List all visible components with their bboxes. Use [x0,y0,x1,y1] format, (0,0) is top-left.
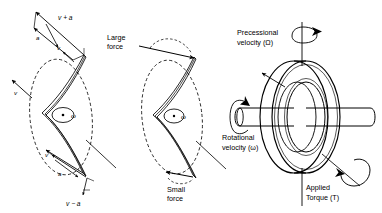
right-panel: Precessional velocity (Ω) [222,22,375,206]
middle-panel: ω Large force Small force [107,33,226,203]
left-side-vector: v [12,80,32,98]
left-panel: ω v + a a v v [12,12,116,207]
rotational-velocity-label-line1: Rotational [222,133,255,142]
middle-small-force: Small force [166,172,193,203]
left-side-velocity-label: v [14,89,18,96]
precession-arrow [292,27,322,43]
left-hub: ω [52,108,76,123]
flywheel [260,61,340,173]
left-resultant-bottom-label: v − a [66,200,81,207]
middle-large-force-label-line2: force [107,42,123,51]
figure-svg: ω v + a a v v [0,0,382,213]
left-resultant-top-label: v + a [58,14,73,21]
precessional-velocity-label-line1: Precessional [237,28,279,37]
middle-large-force: Large force [107,33,194,58]
left-delta-top-label: a [36,34,40,41]
middle-spin-label: ω [181,113,186,120]
precessional-velocity-label-line2: velocity (Ω) [237,38,273,47]
middle-small-force-label-line1: Small [167,185,185,194]
middle-small-force-label-line2: force [167,194,183,203]
middle-blade-body [153,57,196,178]
left-top-vectors: v + a a v [34,12,84,62]
rotational-arrow [230,96,250,134]
middle-hub: ω [164,109,186,123]
middle-large-force-label-line1: Large [107,33,125,42]
left-axle-line [86,140,116,168]
left-bottom-vectors: v a v − a [45,150,94,207]
applied-torque-label-line2: Torque (T) [306,193,339,202]
wheel-face-pointer [262,73,285,87]
rotational-velocity-label-line2: velocity (ω) [222,143,258,152]
middle-disk-outline [136,57,208,177]
left-delta-bottom-label: a [58,170,62,177]
shaft-left [235,108,294,126]
gyroscope-figure: ω v + a a v v [0,0,382,213]
left-spin-label: ω [71,112,76,119]
applied-torque-label-line1: Applied [306,183,330,192]
